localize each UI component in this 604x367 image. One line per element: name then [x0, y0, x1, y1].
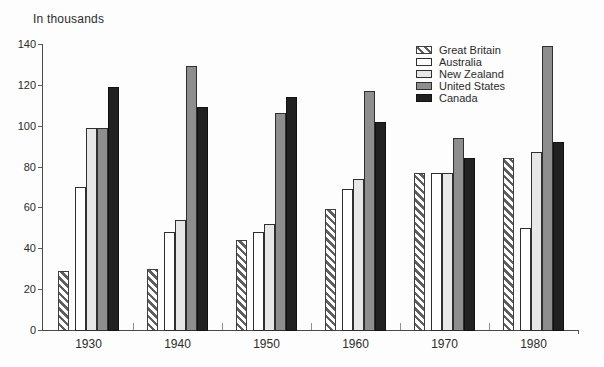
legend-swatch-united-states-icon [416, 82, 432, 90]
bar-great-britain-1940 [147, 269, 158, 331]
bar-canada-1950 [286, 97, 297, 331]
x-axis-label-1940: 1940 [156, 337, 200, 351]
bar-united-states-1980 [542, 46, 553, 331]
x-axis-minor-tick [133, 323, 134, 330]
bar-canada-1960 [375, 122, 386, 331]
legend-swatch-australia-icon [416, 58, 432, 66]
x-axis-label-1980: 1980 [512, 337, 556, 351]
y-axis-label-80: 80 [8, 161, 36, 173]
bar-united-states-1960 [364, 91, 375, 331]
bar-canada-1970 [464, 158, 475, 331]
x-axis-label-1970: 1970 [423, 337, 467, 351]
bar-united-states-1970 [453, 138, 464, 331]
bar-australia-1940 [164, 232, 175, 331]
bar-great-britain-1930 [58, 271, 69, 331]
x-axis-minor-tick [400, 323, 401, 330]
bar-australia-1930 [75, 187, 86, 331]
x-axis-label-1930: 1930 [67, 337, 111, 351]
bar-united-states-1930 [97, 128, 108, 331]
x-axis-minor-tick [222, 323, 223, 330]
legend-item-australia: Australia [416, 56, 505, 68]
bar-new-zealand-1980 [531, 152, 542, 331]
legend-swatch-new-zealand-icon [416, 70, 432, 78]
legend: Great BritainAustraliaNew ZealandUnited … [416, 44, 505, 104]
legend-label-great-britain: Great Britain [439, 44, 501, 56]
y-axis-tick [38, 44, 42, 45]
bar-australia-1960 [342, 189, 353, 331]
legend-item-united-states: United States [416, 80, 505, 92]
legend-item-new-zealand: New Zealand [416, 68, 505, 80]
bar-new-zealand-1960 [353, 179, 364, 331]
y-axis-label-0: 0 [8, 324, 36, 336]
legend-item-canada: Canada [416, 92, 505, 104]
bar-canada-1980 [553, 142, 564, 331]
bar-great-britain-1950 [236, 240, 247, 331]
legend-label-australia: Australia [439, 56, 482, 68]
x-axis-end-tick [578, 330, 579, 334]
bar-great-britain-1970 [414, 173, 425, 331]
legend-label-united-states: United States [439, 80, 505, 92]
y-axis-label-140: 140 [8, 38, 36, 50]
bar-australia-1950 [253, 232, 264, 331]
legend-label-new-zealand: New Zealand [439, 68, 504, 80]
bar-great-britain-1960 [325, 209, 336, 331]
x-axis-label-1950: 1950 [245, 337, 289, 351]
y-axis-tick [38, 85, 42, 86]
bar-new-zealand-1930 [86, 128, 97, 331]
y-axis-label-20: 20 [8, 283, 36, 295]
x-axis-label-1960: 1960 [334, 337, 378, 351]
bar-australia-1970 [431, 173, 442, 331]
y-axis-label-60: 60 [8, 201, 36, 213]
legend-swatch-canada-icon [416, 94, 432, 102]
y-axis-tick [38, 207, 42, 208]
y-axis-label-120: 120 [8, 79, 36, 91]
bar-canada-1930 [108, 87, 119, 331]
bar-new-zealand-1970 [442, 173, 453, 331]
y-axis-tick [38, 248, 42, 249]
bar-canada-1940 [197, 107, 208, 331]
legend-label-canada: Canada [439, 92, 478, 104]
x-axis-minor-tick [311, 323, 312, 330]
legend-swatch-great-britain-icon [416, 46, 432, 54]
bar-new-zealand-1940 [175, 220, 186, 331]
legend-item-great-britain: Great Britain [416, 44, 505, 56]
bar-new-zealand-1950 [264, 224, 275, 331]
bar-great-britain-1980 [503, 158, 514, 331]
bar-chart-figure: In thousands 020406080100120140 19301940… [0, 0, 604, 367]
y-axis-tick [38, 330, 42, 331]
x-axis-minor-tick [489, 323, 490, 330]
bar-united-states-1950 [275, 113, 286, 331]
chart-title: In thousands [33, 12, 104, 26]
y-axis-line [42, 44, 43, 331]
y-axis-label-100: 100 [8, 120, 36, 132]
x-axis-line [42, 330, 579, 331]
y-axis-tick [38, 167, 42, 168]
y-axis-tick [38, 289, 42, 290]
y-axis-label-40: 40 [8, 242, 36, 254]
y-axis-tick [38, 126, 42, 127]
bar-australia-1980 [520, 228, 531, 331]
bar-united-states-1940 [186, 66, 197, 331]
